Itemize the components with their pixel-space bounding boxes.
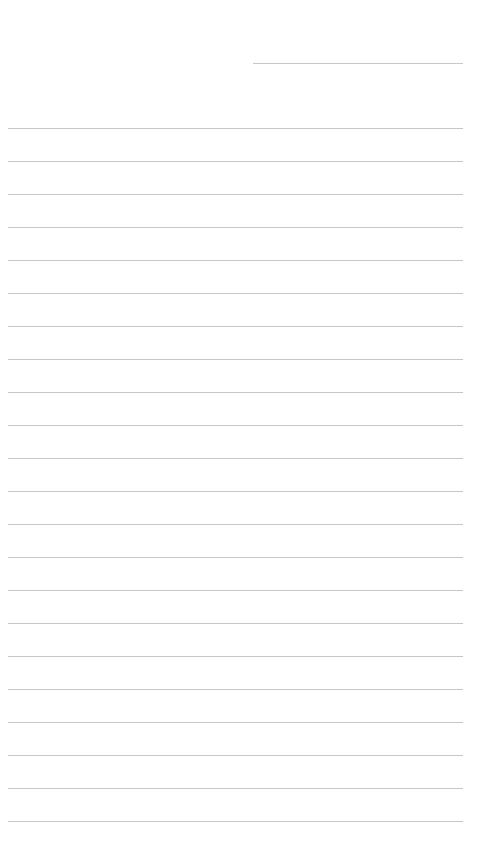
ruled-line: [8, 689, 463, 690]
ruled-line: [8, 227, 463, 228]
ruled-line: [8, 524, 463, 525]
ruled-line: [8, 458, 463, 459]
ruled-line: [8, 656, 463, 657]
ruled-line: [8, 788, 463, 789]
ruled-line: [8, 425, 463, 426]
ruled-line: [8, 590, 463, 591]
ruled-line: [8, 557, 463, 558]
ruled-line: [8, 293, 463, 294]
ruled-line: [8, 821, 463, 822]
ruled-line: [8, 722, 463, 723]
ruled-line: [8, 491, 463, 492]
ruled-line: [8, 326, 463, 327]
ruled-line: [8, 260, 463, 261]
ruled-line: [8, 359, 463, 360]
ruled-line: [8, 392, 463, 393]
header-date-line: [253, 63, 463, 64]
ruled-line: [8, 194, 463, 195]
ruled-line: [8, 128, 463, 129]
ruled-line: [8, 161, 463, 162]
ruled-line: [8, 755, 463, 756]
lined-paper-page: [0, 0, 495, 860]
ruled-line: [8, 623, 463, 624]
